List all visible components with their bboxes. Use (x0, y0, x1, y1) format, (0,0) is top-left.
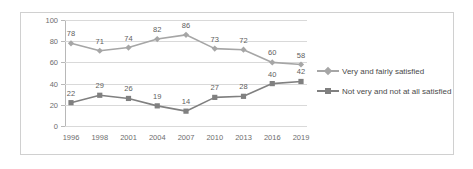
data-label: 60 (268, 48, 276, 57)
legend-label: Very and fairly satisfied (342, 67, 424, 76)
data-point-marker (68, 100, 73, 105)
data-label: 22 (67, 89, 75, 98)
data-label: 27 (211, 83, 219, 92)
data-point-marker (97, 93, 102, 98)
data-label: 58 (297, 51, 305, 60)
data-label: 28 (239, 82, 247, 91)
y-tick-label: 100 (45, 16, 58, 25)
data-label: 72 (239, 36, 247, 45)
data-point-marker (97, 48, 103, 54)
legend-label: Not very and not at all satisfied (342, 87, 451, 96)
y-tick-label: 20 (50, 100, 58, 109)
x-tick-label: 1998 (91, 133, 108, 142)
plot-wrapper: 020406080100 199619982001200420072010201… (21, 13, 453, 154)
data-label: 40 (268, 70, 276, 79)
data-label: 73 (211, 35, 219, 44)
data-label: 42 (297, 67, 305, 76)
data-point-marker (212, 95, 217, 100)
data-point-marker (183, 109, 188, 114)
x-tick-label: 2007 (178, 133, 195, 142)
chart-frame: 020406080100 199619982001200420072010201… (20, 12, 454, 155)
legend-swatch-icon (317, 66, 339, 76)
data-point-marker (68, 40, 74, 46)
legend-swatch-icon (317, 86, 339, 96)
x-tick-label: 2004 (149, 133, 166, 142)
data-point-marker (241, 94, 246, 99)
data-label: 71 (96, 37, 104, 46)
data-label: 29 (96, 81, 104, 90)
x-tick-label: 2013 (235, 133, 252, 142)
y-tick-mark (61, 126, 65, 127)
data-label: 74 (124, 34, 132, 43)
data-point-marker (240, 47, 246, 53)
x-tick-label: 2001 (120, 133, 137, 142)
data-label: 82 (153, 25, 161, 34)
data-point-marker (270, 81, 275, 86)
x-tick-label: 2010 (206, 133, 223, 142)
y-tick-label: 0 (54, 122, 58, 131)
data-label: 19 (153, 92, 161, 101)
x-tick-label: 1996 (63, 133, 80, 142)
data-point-marker (298, 79, 303, 84)
x-tick-label: 2016 (264, 133, 281, 142)
series-line-1 (71, 35, 301, 65)
chart-legend: Very and fairly satisfiedNot very and no… (317, 63, 449, 103)
data-point-marker (155, 103, 160, 108)
plot-area: 020406080100 199619982001200420072010201… (65, 20, 307, 126)
gridline (65, 126, 307, 127)
data-label: 26 (124, 84, 132, 93)
data-point-marker (183, 32, 189, 38)
y-tick-label: 40 (50, 79, 58, 88)
data-point-marker (154, 36, 160, 42)
x-tick-label: 2019 (293, 133, 310, 142)
legend-item-2[interactable]: Not very and not at all satisfied (317, 83, 449, 99)
data-point-marker (126, 96, 131, 101)
data-label: 86 (182, 21, 190, 30)
data-point-marker (269, 59, 275, 65)
y-tick-label: 60 (50, 58, 58, 67)
data-point-marker (212, 46, 218, 52)
legend-item-1[interactable]: Very and fairly satisfied (317, 63, 449, 79)
data-label: 78 (67, 29, 75, 38)
data-label: 14 (182, 97, 190, 106)
data-point-marker (125, 44, 131, 50)
y-tick-label: 80 (50, 37, 58, 46)
